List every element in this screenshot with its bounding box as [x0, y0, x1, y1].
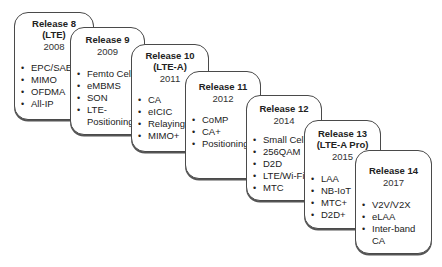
release-13-subtitle: (LTE-A Pro): [309, 139, 376, 150]
release-9-title: Release 9: [75, 34, 140, 45]
bullet-icon: •: [311, 197, 314, 209]
bullet-icon: •: [138, 106, 141, 118]
release-10-title: Release 10: [136, 50, 204, 61]
bullet-icon: •: [77, 92, 80, 104]
bullet-icon: •: [192, 126, 195, 138]
bullet-icon: •: [253, 134, 256, 146]
release-11-title: Release 11: [190, 81, 256, 92]
release-14-features: •V2V/V2X •eLAA •Inter-band CA: [360, 199, 427, 247]
bullet-icon: •: [253, 182, 256, 194]
feature-item: •eLAA: [360, 211, 427, 223]
bullet-icon: •: [77, 68, 80, 80]
release-10-subtitle: (LTE-A): [136, 61, 204, 72]
bullet-icon: •: [311, 209, 314, 221]
bullet-icon: •: [192, 138, 195, 150]
release-12-title: Release 12: [251, 103, 317, 114]
bullet-icon: •: [253, 170, 256, 182]
bullet-icon: •: [21, 98, 24, 110]
bullet-icon: •: [138, 130, 141, 142]
bullet-icon: •: [77, 80, 80, 92]
bullet-icon: •: [362, 223, 365, 235]
bullet-icon: •: [192, 114, 195, 126]
bullet-icon: •: [77, 104, 80, 116]
feature-item: •V2V/V2X: [360, 199, 427, 211]
bullet-icon: •: [311, 173, 314, 185]
release-13-title: Release 13: [309, 128, 376, 139]
feature-item: •Inter-band CA: [360, 223, 427, 247]
bullet-icon: •: [253, 158, 256, 170]
release-14-title: Release 14: [360, 165, 427, 176]
bullet-icon: •: [21, 62, 24, 74]
bullet-icon: •: [362, 211, 365, 223]
bullet-icon: •: [253, 146, 256, 158]
bullet-icon: •: [21, 86, 24, 98]
bullet-icon: •: [138, 94, 141, 106]
bullet-icon: •: [311, 185, 314, 197]
release-14-year: 2017: [360, 177, 427, 189]
bullet-icon: •: [21, 74, 24, 86]
bullet-icon: •: [138, 118, 141, 130]
release-14-card: Release 14 2017 •V2V/V2X •eLAA •Inter-ba…: [355, 150, 432, 254]
bullet-icon: •: [362, 199, 365, 211]
